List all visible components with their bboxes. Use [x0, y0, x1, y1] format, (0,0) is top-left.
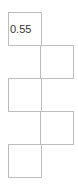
cell-2[interactable]	[40, 45, 74, 79]
cell-value: 0.55	[10, 22, 31, 36]
cell-5[interactable]	[8, 144, 42, 178]
cell-3[interactable]	[8, 78, 42, 112]
cell-4[interactable]	[40, 111, 74, 145]
cell-1[interactable]: 0.55	[8, 12, 42, 46]
